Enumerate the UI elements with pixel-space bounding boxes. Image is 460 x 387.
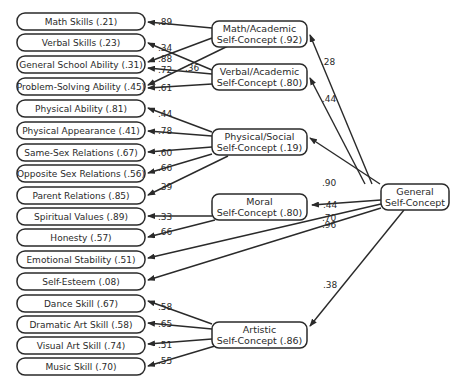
construct-moral: Moral Self-Concept (.80) [212, 194, 307, 220]
indicator-spiritual-values: Spiritual Values (.89) [17, 208, 145, 225]
svg-text:.66: .66 [158, 227, 173, 237]
indicator-honesty: Honesty (.57) [17, 229, 145, 246]
svg-text:General: General [396, 186, 433, 197]
construct-artistic: Artistic Self-Concept (.86) [212, 322, 307, 348]
svg-text:Dance Skill (.67): Dance Skill (.67) [44, 299, 118, 309]
svg-text:.44: .44 [323, 200, 338, 210]
indicator-math-skills: Math Skills (.21) [17, 13, 145, 30]
svg-text:Opposite Sex Relations (.56): Opposite Sex Relations (.56) [17, 169, 145, 179]
indicator-self-esteem: Self-Esteem (.08) [17, 273, 145, 290]
construct-verbal-academic: Verbal/Academic Self-Concept (.80) [212, 64, 307, 90]
svg-text:.33: .33 [158, 212, 172, 222]
construct-physical-social: Physical/Social Self-Concept (.19) [212, 129, 307, 155]
svg-text:Self-Concept (.80): Self-Concept (.80) [217, 77, 303, 88]
svg-text:General School Ability (.31): General School Ability (.31) [19, 60, 143, 70]
svg-text:Emotional Stability (.51): Emotional Stability (.51) [26, 255, 135, 265]
svg-text:.51: .51 [158, 340, 172, 350]
svg-text:Verbal Skills (.23): Verbal Skills (.23) [42, 38, 121, 48]
indicator-visual-art-skill: Visual Art Skill (.74) [17, 337, 145, 354]
svg-text:.28: .28 [321, 57, 336, 67]
indicator-boxes: Math Skills (.21) Verbal Skills (.23) Ge… [17, 13, 145, 375]
svg-text:.78: .78 [158, 126, 173, 136]
indicator-music-skill: Music Skill (.70) [17, 358, 145, 375]
svg-text:.65: .65 [158, 319, 172, 329]
svg-text:Math Skills (.21): Math Skills (.21) [45, 17, 118, 27]
svg-text:Music Skill (.70): Music Skill (.70) [45, 362, 116, 372]
svg-text:Problem-Solving Ability (.45): Problem-Solving Ability (.45) [17, 82, 145, 92]
construct-general-self-concept: General Self-Concept [381, 184, 449, 210]
svg-text:.66: .66 [158, 163, 173, 173]
indicator-dance-skill: Dance Skill (.67) [17, 295, 145, 312]
svg-text:Math/Academic: Math/Academic [223, 23, 296, 34]
svg-text:.60: .60 [158, 148, 173, 158]
svg-text:.36: .36 [185, 63, 200, 73]
svg-text:.34: .34 [158, 43, 173, 53]
svg-text:Physical Ability (.81): Physical Ability (.81) [35, 104, 127, 114]
svg-text:Self-Concept: Self-Concept [385, 197, 445, 208]
svg-text:.44: .44 [158, 109, 173, 119]
indicator-opposite-sex-relations: Opposite Sex Relations (.56) [17, 165, 145, 182]
svg-text:.55: .55 [158, 356, 172, 366]
svg-text:.90: .90 [322, 178, 337, 188]
svg-text:Parent Relations (.85): Parent Relations (.85) [32, 191, 129, 201]
indicator-dramatic-art-skill: Dramatic Art Skill (.58) [17, 316, 145, 333]
svg-text:Self-Concept (.92): Self-Concept (.92) [217, 34, 303, 45]
svg-text:.44: .44 [322, 94, 337, 104]
svg-text:Visual Art Skill (.74): Visual Art Skill (.74) [37, 341, 126, 351]
path-general-math [310, 35, 372, 184]
indicator-problem-solving: Problem-Solving Ability (.45) [17, 78, 145, 95]
indicator-verbal-skills: Verbal Skills (.23) [17, 34, 145, 51]
indicator-physical-ability: Physical Ability (.81) [17, 100, 145, 117]
svg-text:.88: .88 [158, 54, 173, 64]
svg-text:.89: .89 [158, 17, 173, 27]
svg-text:Verbal/Academic: Verbal/Academic [220, 66, 300, 77]
indicator-same-sex-relations: Same-Sex Relations (.67) [17, 144, 145, 161]
svg-text:Physical Appearance (.41): Physical Appearance (.41) [22, 126, 140, 136]
path-diagram: Math Skills (.21) Verbal Skills (.23) Ge… [0, 0, 460, 387]
svg-text:Honesty (.57): Honesty (.57) [50, 233, 111, 243]
svg-text:.58: .58 [158, 302, 173, 312]
indicator-emotional-stability: Emotional Stability (.51) [17, 251, 145, 268]
svg-text:.39: .39 [158, 182, 173, 192]
svg-text:.96: .96 [322, 220, 337, 230]
svg-text:Dramatic Art Skill (.58): Dramatic Art Skill (.58) [29, 320, 132, 330]
construct-math-academic: Math/Academic Self-Concept (.92) [212, 21, 307, 47]
svg-text:Self-Concept (.86): Self-Concept (.86) [217, 335, 303, 346]
svg-text:Self-Concept (.19): Self-Concept (.19) [217, 142, 303, 153]
svg-text:Physical/Social: Physical/Social [224, 131, 294, 142]
svg-text:Self-Esteem (.08): Self-Esteem (.08) [42, 277, 120, 287]
svg-text:Spiritual Values (.89): Spiritual Values (.89) [34, 212, 128, 222]
svg-text:.38: .38 [323, 280, 338, 290]
svg-text:Artistic: Artistic [243, 324, 276, 335]
svg-text:Moral: Moral [246, 196, 272, 207]
svg-text:.72: .72 [158, 65, 172, 75]
indicator-general-school-ability: General School Ability (.31) [17, 56, 145, 73]
svg-text:Same-Sex Relations (.67): Same-Sex Relations (.67) [24, 148, 138, 158]
indicator-physical-appearance: Physical Appearance (.41) [17, 122, 145, 139]
svg-text:.61: .61 [158, 83, 172, 93]
svg-text:Self-Concept (.80): Self-Concept (.80) [217, 207, 303, 218]
indicator-parent-relations: Parent Relations (.85) [17, 187, 145, 204]
